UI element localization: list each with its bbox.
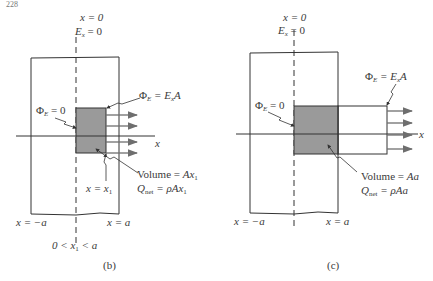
label-flux-left: ΦE = 0 xyxy=(255,99,285,115)
label-left-bound: x = −a xyxy=(16,216,47,228)
label-x-equals-x1: x = x1 xyxy=(86,182,112,198)
field-arrows xyxy=(387,111,412,149)
label-condition: 0 < x1 < a xyxy=(52,239,97,255)
caption-c: (c) xyxy=(327,259,339,271)
leader-flux-right xyxy=(107,98,140,108)
label-x-equals-0: x = 0 xyxy=(80,11,103,23)
x-axis-label: x xyxy=(155,137,160,149)
label-qnet: Qnet = ρAa xyxy=(361,184,408,200)
label-flux-left: ΦE = 0 xyxy=(36,104,66,120)
label-ex-equals-0: Ex = 0 xyxy=(278,24,305,40)
label-qnet: Qnet = ρAx1 xyxy=(137,182,187,198)
panel-c xyxy=(236,30,418,230)
leader-flux-right xyxy=(387,84,396,105)
label-right-bound: x = a xyxy=(326,215,349,227)
label-flux-right: ΦE = ExA xyxy=(365,70,407,86)
gaussian-surface-box xyxy=(76,108,106,153)
gaussian-surface-box xyxy=(294,106,338,154)
leader-x1 xyxy=(104,154,106,181)
label-volume: Volume = Aa xyxy=(361,170,419,182)
label-x-equals-0: x = 0 xyxy=(283,11,306,23)
label-left-bound: x = −a xyxy=(234,215,265,227)
panel-b xyxy=(16,37,155,245)
label-flux-right: ΦE = ExA xyxy=(139,89,181,105)
label-right-bound: x = a xyxy=(107,216,130,228)
caption-b: (b) xyxy=(103,259,116,271)
gaussian-surface-extension xyxy=(338,106,387,154)
x-axis-label: x xyxy=(419,128,424,140)
label-ex-equals-0: Ex = 0 xyxy=(75,25,102,41)
field-arrows xyxy=(106,115,137,153)
